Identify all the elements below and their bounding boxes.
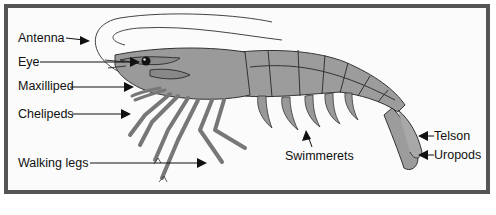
label-uropods: Uropods [434, 148, 481, 162]
label-swimmerets: Swimmerets [285, 149, 354, 163]
label-maxilliped: Maxilliped [18, 79, 74, 93]
label-walking-legs: Walking legs [18, 156, 88, 170]
eye-icon [142, 57, 151, 66]
swimmerets [258, 93, 358, 130]
label-antenna: Antenna [18, 31, 65, 45]
label-telson: Telson [434, 129, 470, 143]
arrow-icon [121, 109, 131, 119]
label-eye: Eye [18, 55, 40, 69]
arrow-icon [197, 158, 207, 168]
tail-fan [384, 108, 422, 170]
label-chelipeds: Chelipeds [18, 107, 74, 121]
arrow-icon [418, 131, 428, 141]
cephalothorax [105, 48, 250, 99]
legs [130, 94, 245, 178]
arrow-icon [80, 36, 90, 45]
shrimp-diagram: Antenna Eye Maxilliped Chelipeds Walking… [0, 0, 496, 215]
